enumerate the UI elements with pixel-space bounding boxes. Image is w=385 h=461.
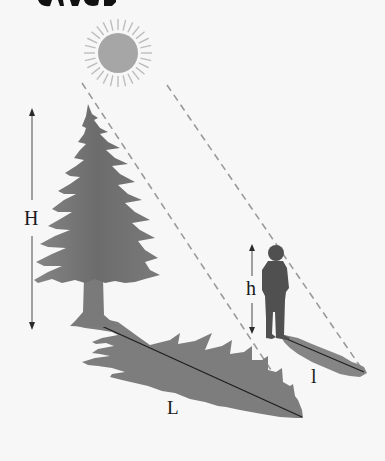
tree-shadow-label: L (167, 398, 179, 417)
shadow-diagram: H h L l (0, 0, 385, 461)
sun-icon (84, 19, 152, 87)
sun-ray-line-person (167, 85, 364, 372)
heading-fragment (38, 0, 116, 6)
tree-height-label: H (24, 208, 38, 228)
person-shadow (280, 334, 367, 377)
diagram-canvas (0, 0, 385, 461)
tree (34, 104, 160, 327)
person-height-label: h (246, 278, 256, 298)
tree-trunk (70, 278, 120, 327)
person-shadow-label: l (311, 366, 317, 386)
tree-crown (34, 104, 160, 283)
